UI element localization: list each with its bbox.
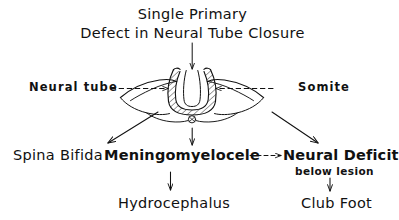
title-line-2: Defect in Neural Tube Closure: [0, 26, 385, 41]
label-club-foot: Club Foot: [301, 196, 372, 211]
title-line-1: Single Primary: [0, 7, 385, 22]
ectoderm-left-underside: [121, 98, 170, 115]
notochord-crosshatch: [189, 117, 195, 122]
label-hydrocephalus: Hydrocephalus: [118, 196, 230, 211]
label-somite: Somite: [298, 82, 350, 94]
neural-fold-tip-left: [174, 68, 181, 69]
neural-canal: [184, 71, 201, 107]
neural-fold-tip-right: [204, 68, 211, 69]
label-spina-bifida: Spina Bifida: [13, 148, 103, 163]
label-neural-tube: Neural tube: [29, 82, 118, 94]
label-meningomyelocele: Meningomyelocele: [104, 148, 260, 163]
arrow-to-neural-deficit: [272, 112, 318, 143]
label-neural-deficit-sublabel: below lesion: [295, 166, 374, 177]
arrow-to-spina-bifida: [108, 112, 158, 143]
ectoderm-right-underside: [215, 98, 264, 115]
label-neural-deficit: Neural Deficit: [283, 148, 399, 163]
neural-fold-inner-wall: [175, 72, 208, 111]
